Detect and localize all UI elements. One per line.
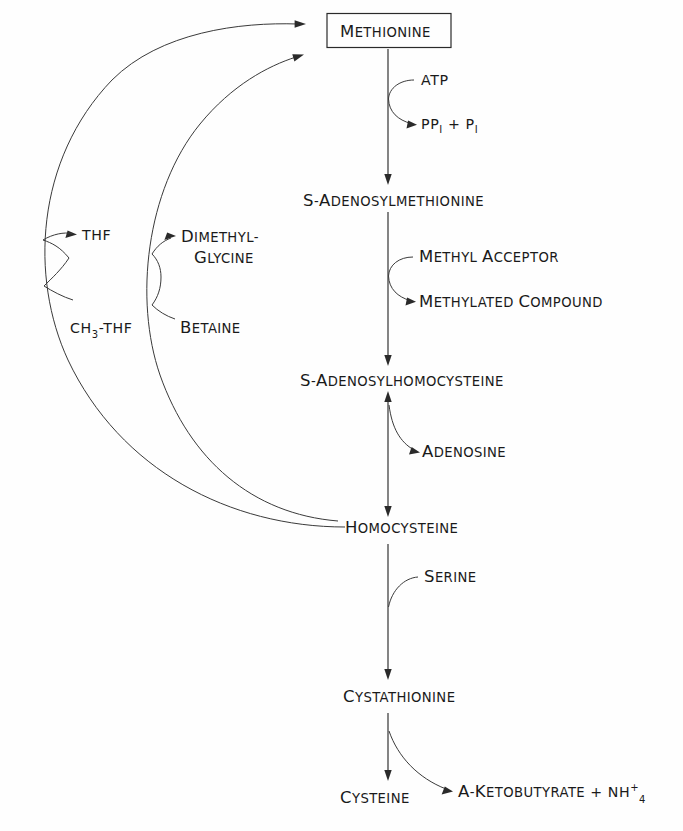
node-label-methionine: METHIONINE xyxy=(340,22,431,41)
cofactor-label-thf: THF xyxy=(81,227,111,243)
arrow-sam-to-sah xyxy=(384,212,391,366)
node-label-sam: S-ADENOSYLMETHIONINE xyxy=(303,191,484,210)
cofactor-label-betaine: BETAINE xyxy=(180,318,241,337)
cofactor-label-atp: ATP xyxy=(421,72,449,88)
reaction-curve-betaine-branch xyxy=(152,232,176,319)
node-label-homocysteine: HOMOCYSTEINE xyxy=(345,518,458,537)
arrow-methionine-to-sam xyxy=(384,49,391,185)
cofactor-label-serine: SERINE xyxy=(424,567,476,586)
reaction-curve-serine xyxy=(389,577,419,607)
reaction-curve-atp xyxy=(389,80,418,128)
loop-curve-thf xyxy=(45,20,345,527)
loop-curve-betaine xyxy=(147,54,338,521)
cofactor-label-dimethylglycine-line2: GLYCINE xyxy=(194,248,254,267)
reaction-curve-ketobutyrate xyxy=(389,731,453,794)
cofactor-label-ketobutyrate: Α-KETOBUTYRATE + NH+4 xyxy=(458,782,646,805)
cofactor-label-dimethylglycine-line1: DIMETHYL- xyxy=(181,227,259,246)
reaction-curve-thf-branch xyxy=(43,231,77,301)
pathway-diagram: METHIONINE ATP PPI + PI S-ADENOSYLMETHIO… xyxy=(0,0,683,831)
cofactor-label-ppi-pi: PPI + PI xyxy=(421,116,478,135)
cofactor-label-adenosine: ADENOSINE xyxy=(422,442,506,461)
node-label-sah: S-ADENOSYLHOMOCYSTEINE xyxy=(300,371,504,390)
arrow-homocysteine-to-cystathionine xyxy=(384,544,391,680)
arrow-cystathionine-to-cysteine xyxy=(384,713,391,781)
pathway-svg: METHIONINE ATP PPI + PI S-ADENOSYLMETHIO… xyxy=(0,0,683,831)
cofactor-label-methylated-compound: METHYLATED COMPOUND xyxy=(419,292,603,311)
arrow-sah-to-homocysteine xyxy=(384,391,391,517)
node-label-cystathionine: CYSTATHIONINE xyxy=(343,687,455,706)
reaction-curve-methyl xyxy=(389,257,417,305)
reaction-curve-adenosine xyxy=(389,405,420,455)
cofactor-label-ch3-thf: CH3-THF xyxy=(70,320,132,340)
cofactor-label-methyl-acceptor: METHYL ACCEPTOR xyxy=(419,247,559,266)
node-label-cysteine: CYSTEINE xyxy=(340,788,410,807)
